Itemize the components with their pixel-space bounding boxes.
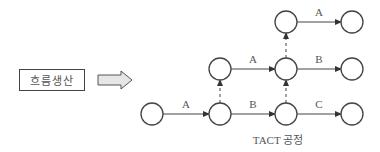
edge-label: A <box>249 53 257 65</box>
transform-arrow-icon <box>98 71 132 89</box>
process-node <box>141 103 163 125</box>
edge-label: A <box>182 98 190 110</box>
edge-label: B <box>249 98 256 110</box>
tact-process-diagram: ABCABA TACT 공정 <box>0 0 380 152</box>
process-node <box>209 58 231 80</box>
process-node <box>275 11 297 33</box>
process-node <box>275 103 297 125</box>
process-node <box>341 58 363 80</box>
edge-label: A <box>315 6 323 18</box>
diagram-caption: TACT 공정 <box>253 134 303 146</box>
process-node <box>275 58 297 80</box>
edge-label: C <box>315 98 322 110</box>
process-node <box>341 11 363 33</box>
process-node <box>341 103 363 125</box>
edge-label: B <box>315 53 322 65</box>
process-node <box>209 103 231 125</box>
